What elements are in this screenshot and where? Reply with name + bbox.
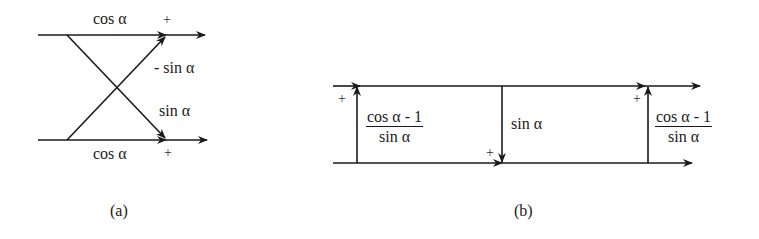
a-bottom-branch-label: cos α (93, 146, 127, 162)
b-right-numerator: cos α - 1 (655, 108, 712, 127)
a-top-branch-label: cos α (93, 11, 127, 27)
a-plus-bottom: + (164, 146, 172, 160)
caption-a: (a) (110, 203, 128, 219)
b-right-denominator: sin α (668, 127, 699, 145)
caption-b: (b) (514, 203, 533, 219)
b-left-numerator: cos α - 1 (366, 108, 423, 127)
a-diag-up-label: - sin α (154, 60, 194, 76)
b-plus-left: + (338, 92, 346, 106)
a-plus-top: + (163, 13, 171, 27)
b-mid-label: sin α (511, 116, 542, 132)
a-diag-down-label: sin α (159, 103, 190, 119)
b-right-fraction: cos α - 1 sin α (655, 108, 712, 145)
b-plus-right: + (633, 92, 641, 106)
b-left-fraction: cos α - 1 sin α (366, 108, 423, 145)
b-left-denominator: sin α (379, 127, 410, 145)
b-plus-mid: + (486, 146, 494, 160)
